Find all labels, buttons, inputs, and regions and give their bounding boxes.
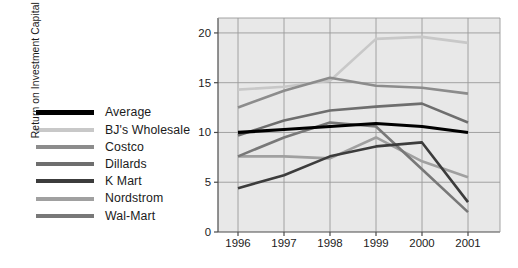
line-chart: Return on Investment Capital (%) 2015105…	[0, 0, 518, 268]
chart-screenshot: Average BJ's Wholesale Costco Dillards K…	[0, 0, 518, 268]
plot-canvas	[0, 0, 518, 268]
